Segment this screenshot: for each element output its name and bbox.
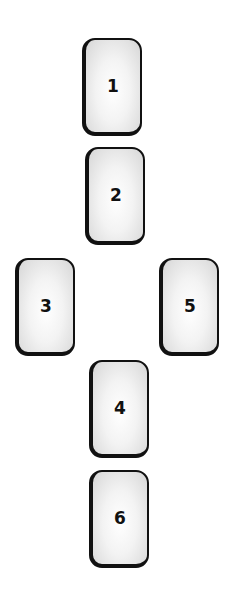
card-number: 4	[114, 398, 126, 418]
card-position-5: 5	[159, 258, 219, 356]
card-position-3: 3	[15, 258, 75, 356]
card-position-4: 4	[89, 360, 149, 458]
card-number: 3	[40, 296, 52, 316]
card-number: 2	[110, 185, 122, 205]
card-position-1: 1	[82, 38, 142, 136]
card-number: 6	[114, 508, 126, 528]
card-position-6: 6	[89, 470, 149, 568]
card-number: 5	[184, 296, 196, 316]
card-position-2: 2	[85, 147, 145, 245]
card-number: 1	[107, 76, 119, 96]
